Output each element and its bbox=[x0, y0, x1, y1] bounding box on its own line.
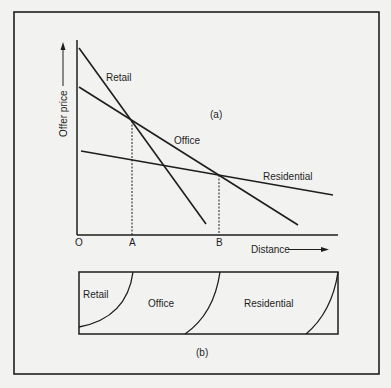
zone-retail-label: Retail bbox=[83, 289, 109, 300]
zone-office-label: Office bbox=[148, 298, 174, 309]
x-axis-arrow-icon bbox=[321, 247, 329, 252]
office-curve-label: Office bbox=[174, 135, 200, 146]
panel-b: Retail Office Residential (b) bbox=[79, 272, 338, 358]
panel-a: Offer price Distance O A B Retail Office… bbox=[58, 40, 338, 255]
origin-label: O bbox=[75, 237, 83, 248]
residential-curve-label: Residential bbox=[263, 171, 312, 182]
office-residential-boundary bbox=[185, 272, 220, 334]
retail-curve-label: Retail bbox=[106, 72, 132, 83]
land-use-strip bbox=[79, 272, 338, 334]
residential-outer-boundary bbox=[306, 272, 338, 334]
bid-rent-diagram: Offer price Distance O A B Retail Office… bbox=[0, 0, 391, 388]
point-a-label: A bbox=[129, 237, 136, 248]
x-axis-label: Distance bbox=[251, 244, 290, 255]
zone-residential-label: Residential bbox=[244, 298, 293, 309]
y-axis-arrow-icon bbox=[61, 42, 66, 50]
y-axis-label: Offer price bbox=[58, 90, 69, 137]
panel-b-label: (b) bbox=[196, 347, 208, 358]
point-b-label: B bbox=[216, 237, 223, 248]
panel-a-label: (a) bbox=[210, 109, 222, 120]
